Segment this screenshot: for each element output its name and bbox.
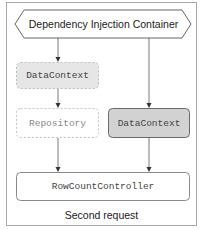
datacontext-transient-label: DataContext bbox=[16, 62, 99, 89]
datacontext-scoped-label: DataContext bbox=[108, 108, 190, 138]
container-label: Dependency Injection Container bbox=[16, 10, 191, 38]
controller-label: RowCountController bbox=[16, 172, 190, 201]
repository-label: Repository bbox=[16, 108, 99, 138]
edges bbox=[58, 38, 149, 168]
caption: Second request bbox=[6, 206, 197, 224]
